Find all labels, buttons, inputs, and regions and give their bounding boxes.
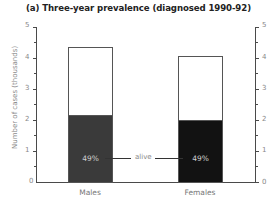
right-minor-tick xyxy=(255,135,258,136)
left-tick-3 xyxy=(33,89,37,90)
right-tick-label-5: 5 xyxy=(262,22,266,29)
right-minor-tick xyxy=(255,73,258,74)
x-label-females: Females xyxy=(170,188,230,197)
left-minor-tick xyxy=(34,73,37,74)
left-tick-1 xyxy=(33,151,37,152)
right-tick-0 xyxy=(255,182,259,183)
left-tick-2 xyxy=(33,120,37,121)
left-tick-label-1: 1 xyxy=(25,147,29,154)
left-minor-tick xyxy=(34,104,37,105)
left-tick-5 xyxy=(33,27,37,28)
left-tick-label-2: 2 xyxy=(25,116,29,123)
left-minor-tick xyxy=(34,42,37,43)
males-bar-alive xyxy=(68,115,113,183)
left-tick-label-3: 3 xyxy=(25,85,29,92)
right-tick-label-4: 4 xyxy=(262,54,266,61)
left-minor-tick xyxy=(34,166,37,167)
females-bar-alive xyxy=(178,120,223,183)
left-tick-label-4: 4 xyxy=(25,54,29,61)
left-y-axis xyxy=(36,27,37,183)
right-tick-2 xyxy=(255,120,259,121)
right-tick-1 xyxy=(255,151,259,152)
left-tick-4 xyxy=(33,58,37,59)
right-tick-label-1: 1 xyxy=(262,147,266,154)
alive-leader-line-right xyxy=(155,158,183,159)
right-y-axis xyxy=(255,27,256,183)
right-tick-5 xyxy=(255,27,259,28)
right-tick-3 xyxy=(255,89,259,90)
right-tick-4 xyxy=(255,58,259,59)
right-tick-label-3: 3 xyxy=(262,85,266,92)
right-minor-tick xyxy=(255,166,258,167)
alive-annotation: alive xyxy=(135,153,152,161)
right-minor-tick xyxy=(255,42,258,43)
x-label-males: Males xyxy=(60,188,120,197)
chart-title: (a) Three-year prevalence (diagnosed 199… xyxy=(0,3,277,13)
y-axis-label: Number of cases (thousands) xyxy=(11,69,19,149)
right-tick-label-0: 0 xyxy=(262,179,266,186)
alive-leader-line-left xyxy=(105,158,131,159)
right-tick-label-2: 2 xyxy=(262,116,266,123)
left-tick-label-5: 5 xyxy=(25,22,29,29)
females-pct-label: 49% xyxy=(178,154,223,163)
left-minor-tick xyxy=(34,135,37,136)
right-minor-tick xyxy=(255,104,258,105)
left-tick-label-0: 0 xyxy=(29,178,33,185)
